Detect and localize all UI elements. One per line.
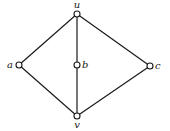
node-c [147,63,153,69]
edge-a-v [19,65,77,116]
edge-c-v [77,66,150,116]
label-v: v [74,119,80,130]
label-u: u [74,0,80,10]
label-b: b [82,59,88,70]
node-u [74,11,80,17]
label-a: a [7,59,13,70]
graph-diagram: u a b c v [0,0,170,131]
node-b [74,62,80,68]
node-a [16,62,22,68]
label-c: c [155,60,161,71]
edge-u-a [19,14,77,65]
